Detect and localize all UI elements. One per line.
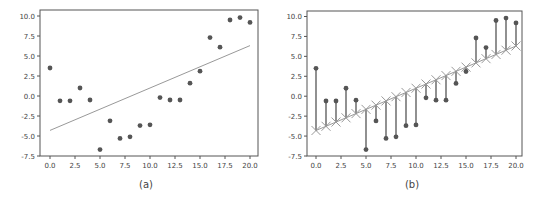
data-point (148, 122, 153, 127)
y-tick-label: -7.5 (21, 153, 35, 161)
x-tick-label: 7.5 (385, 162, 396, 170)
x-tick-label: 5.0 (360, 162, 371, 170)
data-point (354, 98, 359, 103)
panel-b: -7.5-5.0-2.50.02.55.07.510.00.02.55.07.5… (266, 0, 536, 202)
x-tick-label: 10.0 (142, 162, 158, 170)
data-point (454, 81, 459, 86)
data-point (78, 86, 83, 91)
data-point (98, 147, 103, 152)
data-point (484, 45, 489, 50)
y-tick-label: -5.0 (21, 133, 35, 141)
x-tick-label: 7.5 (119, 162, 130, 170)
data-point (228, 18, 233, 23)
data-point (314, 66, 319, 71)
panel-a-caption: (a) (126, 179, 166, 190)
y-tick-label: 0.0 (24, 93, 35, 101)
data-point (474, 36, 479, 41)
data-point (168, 98, 173, 103)
y-tick-label: 10.0 (286, 13, 302, 21)
y-tick-label: -7.5 (288, 153, 302, 161)
data-point (138, 123, 143, 128)
data-point (208, 35, 213, 40)
data-point (374, 119, 379, 124)
x-tick-label: 15.0 (192, 162, 208, 170)
y-tick-label: 2.5 (24, 73, 35, 81)
data-point (404, 123, 409, 128)
data-point (324, 99, 329, 104)
data-point (198, 69, 203, 74)
data-point (58, 98, 63, 103)
data-point (238, 15, 243, 20)
data-point (188, 81, 193, 86)
panel-a: -7.5-5.0-2.50.02.55.07.510.00.02.55.07.5… (0, 0, 270, 202)
data-point (444, 98, 449, 103)
x-tick-label: 15.0 (458, 162, 474, 170)
x-tick-label: 0.0 (310, 162, 321, 170)
x-tick-label: 10.0 (408, 162, 424, 170)
data-point (118, 136, 123, 141)
data-point (88, 98, 93, 103)
data-point (494, 18, 499, 23)
x-tick-label: 20.0 (508, 162, 524, 170)
data-point (424, 95, 429, 100)
data-point (128, 134, 133, 139)
y-tick-label: 5.0 (291, 53, 302, 61)
data-point (414, 123, 419, 128)
data-point (68, 98, 73, 103)
data-point (514, 20, 519, 25)
x-tick-label: 12.5 (433, 162, 449, 170)
data-point (218, 45, 223, 50)
y-tick-label: -2.5 (288, 113, 302, 121)
data-point (384, 136, 389, 141)
chart-b-plot: -7.5-5.0-2.50.02.55.07.510.00.02.55.07.5… (266, 0, 539, 202)
x-tick-label: 20.0 (242, 162, 258, 170)
x-tick-label: 5.0 (94, 162, 105, 170)
y-tick-label: -5.0 (288, 133, 302, 141)
data-point (394, 134, 399, 139)
x-tick-label: 0.0 (44, 162, 55, 170)
data-point (108, 118, 113, 123)
data-point (344, 86, 349, 91)
data-point (48, 66, 53, 71)
y-tick-label: 7.5 (24, 33, 35, 41)
chart-a-plot: -7.5-5.0-2.50.02.55.07.510.00.02.55.07.5… (0, 0, 270, 202)
y-tick-label: -2.5 (21, 113, 35, 121)
data-point (364, 147, 369, 152)
plot-frame (40, 10, 258, 156)
panel-b-caption: (b) (392, 179, 432, 190)
x-tick-label: 2.5 (69, 162, 80, 170)
x-tick-label: 17.5 (483, 162, 499, 170)
y-tick-label: 10.0 (19, 13, 35, 21)
data-point (178, 98, 183, 103)
y-tick-label: 5.0 (24, 53, 35, 61)
data-point (334, 99, 339, 104)
x-tick-label: 17.5 (217, 162, 233, 170)
data-point (248, 20, 253, 25)
x-tick-label: 2.5 (335, 162, 346, 170)
x-tick-label: 12.5 (167, 162, 183, 170)
y-tick-label: 7.5 (291, 33, 302, 41)
data-point (464, 69, 469, 74)
y-tick-label: 2.5 (291, 73, 302, 81)
data-point (434, 98, 439, 103)
y-tick-label: 0.0 (291, 93, 302, 101)
plot-frame (307, 11, 522, 156)
data-point (504, 16, 509, 21)
data-point (158, 95, 163, 100)
